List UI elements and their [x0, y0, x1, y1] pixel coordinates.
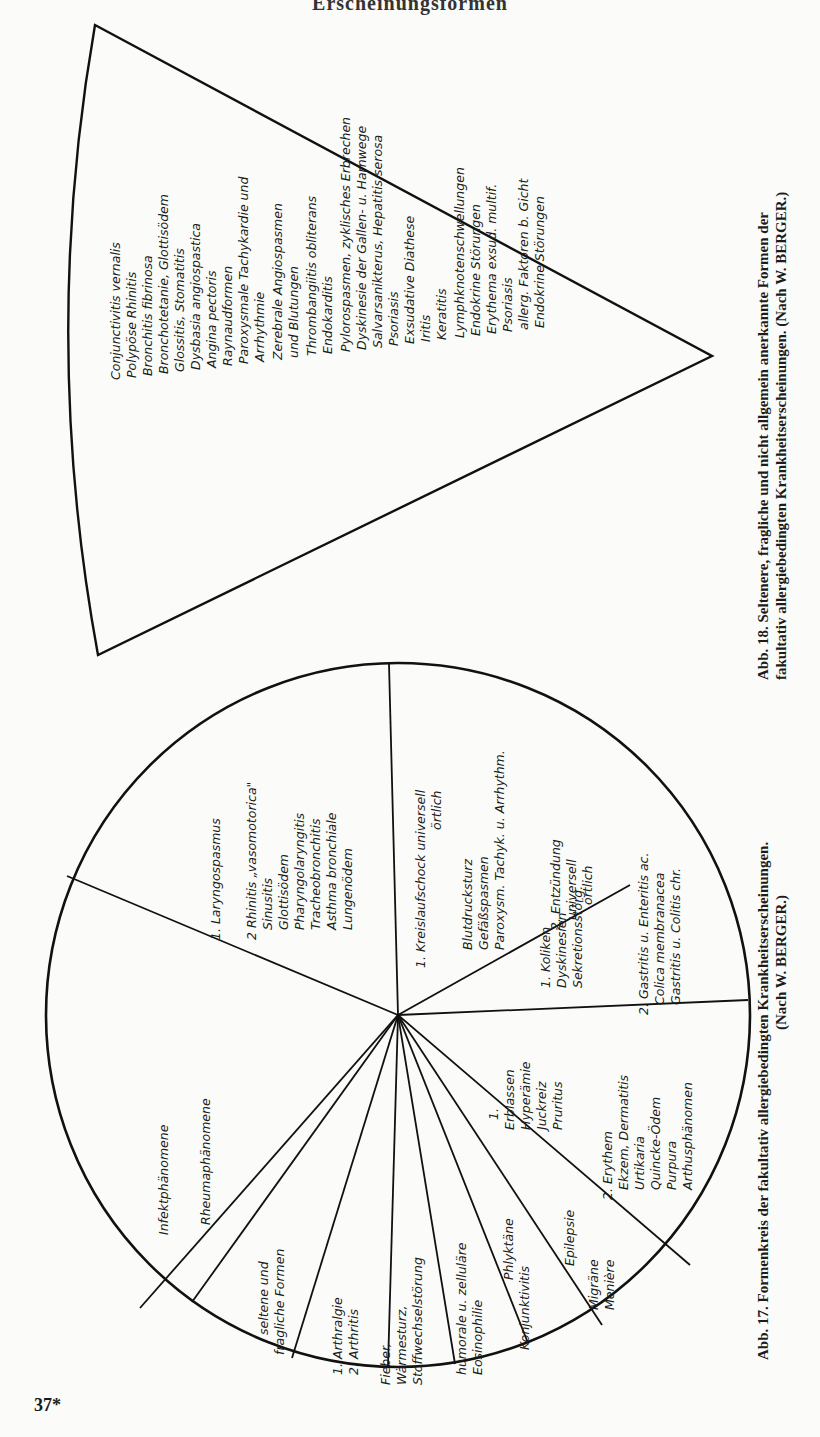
svg-text:Asthma bronchiale: Asthma bronchiale — [324, 812, 339, 931]
svg-text:Migräne: Migräne — [586, 1259, 601, 1310]
svg-text:seltene und: seltene und — [256, 1261, 271, 1335]
svg-text:Juckreiz: Juckreiz — [534, 1081, 549, 1133]
svg-text:Paroxysm. Tachyk. u. Arrhythm.: Paroxysm. Tachyk. u. Arrhythm. — [492, 750, 507, 950]
svg-text:Angina pectoris: Angina pectoris — [204, 270, 219, 369]
svg-text:Stoffwechselstörung: Stoffwechselstörung — [410, 1257, 425, 1385]
svg-text:Zerebrale Angiospasmen: Zerebrale Angiospasmen — [270, 203, 285, 361]
svg-text:Tracheobronchitis: Tracheobronchitis — [308, 818, 323, 930]
svg-text:Lymphknotenschwellungen: Lymphknotenschwellungen — [452, 167, 467, 338]
svg-text:Lungenödem: Lungenödem — [340, 848, 355, 930]
svg-text:1. Koliken: 1. Koliken — [538, 927, 553, 988]
svg-text:Raynaudformen: Raynaudformen — [220, 266, 235, 366]
svg-text:1. Laryngospasmus: 1. Laryngospasmus — [208, 818, 223, 940]
svg-text:Thrombangiitis obliterans: Thrombangiitis obliterans — [304, 195, 319, 356]
svg-text:2 Rhinitis „vasomotorica": 2 Rhinitis „vasomotorica" — [244, 782, 259, 940]
svg-text:Keratitis: Keratitis — [434, 288, 449, 340]
svg-text:Infektphänomene: Infektphänomene — [156, 1124, 171, 1235]
svg-text:2. Erythem: 2. Erythem — [600, 1131, 615, 1200]
page-number: 37* — [34, 1395, 61, 1416]
figure-canvas: Conjunctivitis vernalis Polypöse Rhiniti… — [0, 0, 820, 1437]
figure-17-labels: 1. Laryngospasmus 2 Rhinitis „vasomotori… — [156, 750, 695, 1385]
svg-text:Erblassen: Erblassen — [502, 1069, 517, 1130]
svg-text:Gastritis u. Colitis chr.: Gastritis u. Colitis chr. — [668, 868, 683, 1005]
svg-text:Dyskinesie der Gallen- u. Harn: Dyskinesie der Gallen- u. Harnwege — [354, 126, 369, 350]
svg-text:Colica membranacea: Colica membranacea — [652, 873, 667, 1005]
svg-text:fakultativ allergiebedingten K: fakultativ allergiebedingten Krankheitse… — [773, 192, 790, 680]
svg-text:Paroxysmale Tachykardie und: Paroxysmale Tachykardie und — [236, 177, 251, 364]
svg-text:Blutdrucksturz: Blutdrucksturz — [460, 859, 475, 950]
svg-text:Endokarditis: Endokarditis — [320, 276, 335, 354]
figure-18-items: Conjunctivitis vernalis Polypöse Rhiniti… — [108, 117, 547, 380]
svg-text:Polypöse Rhinitis: Polypöse Rhinitis — [124, 271, 139, 378]
svg-text:Psoriasis: Psoriasis — [500, 277, 515, 332]
svg-text:Ekzem, Dermatitis: Ekzem, Dermatitis — [616, 1074, 631, 1190]
svg-text:Konjunktivitis: Konjunktivitis — [517, 1266, 532, 1350]
svg-text:und Blutungen: und Blutungen — [286, 266, 301, 358]
svg-text:Abb. 17. Formenkreis der faku: Abb. 17. Formenkreis der fakultativ alle… — [755, 842, 771, 1360]
svg-text:(Nach W. BERGER.): (Nach W. BERGER.) — [773, 895, 790, 1030]
svg-text:Sekretionsstörg.: Sekretionsstörg. — [570, 886, 585, 988]
svg-text:Phlyktäne: Phlyktäne — [501, 1218, 516, 1280]
svg-text:Epilepsie: Epilepsie — [562, 1210, 577, 1266]
svg-text:2. Gastritis u. Enteritis ac.: 2. Gastritis u. Enteritis ac. — [636, 853, 651, 1015]
svg-text:1. Arthralgie: 1. Arthralgie — [330, 1297, 345, 1375]
svg-text:Iritis: Iritis — [418, 314, 433, 342]
svg-text:Conjunctivitis vernalis: Conjunctivitis vernalis — [108, 242, 123, 380]
svg-text:Glossitis, Stomatitis: Glossitis, Stomatitis — [172, 248, 187, 372]
svg-text:Quincke-Ödem: Quincke-Ödem — [647, 1097, 663, 1190]
svg-text:Bronchitis fibrinosa: Bronchitis fibrinosa — [140, 255, 155, 376]
svg-text:1.: 1. — [486, 1108, 501, 1120]
figure-18-caption: Abb. 18. Seltenere, fragliche und nicht … — [755, 192, 790, 680]
svg-text:humorale u. zelluläre: humorale u. zelluläre — [454, 1242, 469, 1375]
svg-text:Arrhythmie: Arrhythmie — [252, 291, 267, 363]
svg-text:Fieber,: Fieber, — [378, 1343, 393, 1385]
svg-text:Arthusphänomen: Arthusphänomen — [680, 1082, 695, 1191]
svg-text:Gefäßspasmen: Gefäßspasmen — [476, 856, 491, 950]
svg-text:Bronchotetanie, Glottisödem: Bronchotetanie, Glottisödem — [156, 194, 171, 374]
svg-text:Endokrine Störungen: Endokrine Störungen — [532, 196, 547, 328]
svg-text:Hyperämie: Hyperämie — [518, 1061, 533, 1130]
svg-text:Erythema exsud. multif.: Erythema exsud. multif. — [484, 184, 499, 334]
svg-text:fragliche Formen: fragliche Formen — [272, 1249, 287, 1355]
figure-17-caption: Abb. 17. Formenkreis der fakultativ alle… — [755, 842, 790, 1360]
svg-text:1. Kreislaufschock universell: 1. Kreislaufschock universell — [413, 789, 428, 968]
svg-text:allerg. Faktoren b. Gicht: allerg. Faktoren b. Gicht — [516, 177, 531, 330]
svg-text:Pylorospasmen, zyklisches Erbr: Pylorospasmen, zyklisches Erbrechen — [338, 117, 353, 352]
svg-text:Glottisödem: Glottisödem — [276, 854, 291, 930]
svg-text:örtlich: örtlich — [429, 790, 444, 830]
svg-text:Endokrine Störungen: Endokrine Störungen — [468, 204, 483, 336]
svg-text:Dyskinesien: Dyskinesien — [554, 912, 569, 988]
svg-text:Wärmesturz,: Wärmesturz, — [394, 1306, 409, 1385]
svg-text:Psoriasis: Psoriasis — [386, 291, 401, 346]
svg-text:2. Arthritis: 2. Arthritis — [346, 1309, 361, 1375]
svg-text:Menière: Menière — [602, 1259, 617, 1310]
svg-text:Eosinophilie: Eosinophilie — [470, 1300, 485, 1375]
svg-text:Dysbasia angiospastica: Dysbasia angiospastica — [188, 223, 203, 370]
svg-text:Exsudative Diathese: Exsudative Diathese — [402, 215, 417, 344]
svg-text:Pharyngolaryngitis: Pharyngolaryngitis — [292, 812, 307, 930]
svg-text:Urtikaria: Urtikaria — [632, 1136, 647, 1190]
svg-text:Pruritus: Pruritus — [550, 1081, 565, 1130]
svg-text:Salvarsanikterus, Hepatitis se: Salvarsanikterus, Hepatitis serosa — [370, 135, 385, 348]
svg-text:Rheumaphänomene: Rheumaphänomene — [198, 1098, 213, 1225]
svg-text:Sinusitis: Sinusitis — [260, 877, 275, 930]
svg-text:Purpura: Purpura — [664, 1141, 679, 1190]
svg-text:Abb. 18. Seltenere, fragliche: Abb. 18. Seltenere, fragliche und nicht … — [755, 212, 771, 680]
